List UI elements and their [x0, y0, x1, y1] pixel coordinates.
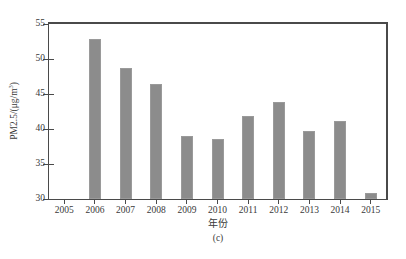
- bar: [150, 84, 162, 199]
- y-axis-tick-label: 45: [36, 89, 46, 99]
- x-axis-tick: [278, 199, 279, 204]
- bar: [273, 102, 285, 199]
- y-axis-tick-inner: [49, 59, 54, 60]
- x-axis-tick: [156, 199, 157, 204]
- y-axis-title-text: PM2.5/(μg/m3): [8, 82, 20, 140]
- x-axis-tick: [340, 199, 341, 204]
- bar-slot: 2008: [141, 24, 172, 199]
- bar: [181, 136, 193, 199]
- x-axis-tick: [125, 199, 126, 204]
- bar: [89, 39, 101, 199]
- x-axis-tick-label: 2014: [331, 206, 350, 216]
- plot-area: 2005200620072008200920102011201220132014…: [48, 22, 388, 200]
- y-axis-tick-label: 50: [36, 54, 46, 64]
- bar: [212, 139, 224, 199]
- bar-slot: 2014: [325, 24, 356, 199]
- bar: [334, 121, 346, 199]
- x-axis-tick-label: 2009: [177, 206, 196, 216]
- y-axis-tick-label: 35: [36, 159, 46, 169]
- x-axis-tick: [370, 199, 371, 204]
- x-axis-tick-label: 2007: [116, 206, 135, 216]
- y-axis-tick-inner: [49, 129, 54, 130]
- x-axis-tick-label: 2010: [208, 206, 227, 216]
- x-axis-tick-label: 2015: [361, 206, 380, 216]
- figure-caption: (c): [48, 234, 388, 244]
- y-axis-tick-inner: [49, 164, 54, 165]
- x-axis-tick-label: 2005: [55, 206, 74, 216]
- bar: [303, 131, 315, 199]
- chart-figure: PM2.5/(μg/m3) 20052006200720082009201020…: [0, 0, 406, 259]
- bar: [242, 116, 254, 199]
- x-axis-tick: [94, 199, 95, 204]
- x-axis-tick: [248, 199, 249, 204]
- y-axis-tick-label: 40: [36, 124, 46, 134]
- bar-slot: 2009: [172, 24, 203, 199]
- x-axis-tick-label: 2013: [300, 206, 319, 216]
- bar-slot: 2005: [49, 24, 80, 199]
- x-axis-tick-label: 2006: [85, 206, 104, 216]
- bar: [120, 68, 132, 199]
- bar-slot: 2015: [355, 24, 386, 199]
- y-axis-tick-label: 55: [36, 19, 46, 29]
- x-axis-title: 年份: [48, 218, 388, 230]
- bar-slot: 2010: [202, 24, 233, 199]
- x-axis-tick: [309, 199, 310, 204]
- bar-series: 2005200620072008200920102011201220132014…: [49, 24, 386, 199]
- bar-slot: 2011: [233, 24, 264, 199]
- x-axis-tick-label: 2012: [269, 206, 288, 216]
- x-axis-tick-label: 2011: [239, 206, 258, 216]
- x-axis-tick: [186, 199, 187, 204]
- x-axis-tick: [64, 199, 65, 204]
- y-axis-title: PM2.5/(μg/m3): [6, 22, 22, 200]
- y-axis-tick-label: 30: [36, 194, 46, 204]
- bar-slot: 2012: [263, 24, 294, 199]
- x-axis-tick: [217, 199, 218, 204]
- bar-slot: 2007: [110, 24, 141, 199]
- x-axis-tick-label: 2008: [147, 206, 166, 216]
- y-axis-tick-inner: [49, 94, 54, 95]
- bar-slot: 2013: [294, 24, 325, 199]
- bar-slot: 2006: [80, 24, 111, 199]
